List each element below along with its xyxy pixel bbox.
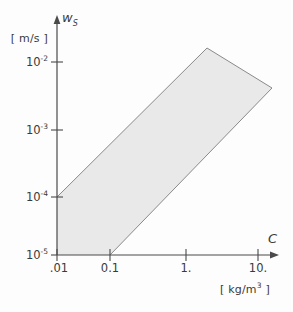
x-axis-title: C — [268, 232, 277, 245]
y-tick-label-1e-2: 10-2 — [26, 55, 48, 68]
y-tick-mantissa: 10 — [26, 248, 41, 262]
x-tick-label-0-01: .01 — [50, 263, 68, 275]
y-tick-label-1e-4: 10-4 — [26, 190, 48, 203]
y-tick-mantissa: 10 — [26, 190, 41, 204]
y-axis-title-base: w — [62, 10, 73, 25]
y-tick-label-1e-5: 10-5 — [26, 248, 48, 261]
y-axis-title-subscript: S — [73, 19, 78, 28]
y-tick-exponent: -5 — [41, 247, 48, 256]
x-axis-units-tail: ] — [262, 283, 270, 296]
x-axis-arrow-icon — [270, 252, 279, 259]
y-tick-label-1e-3: 10-3 — [26, 123, 48, 136]
y-tick-exponent: -2 — [41, 54, 48, 63]
y-tick-exponent: -4 — [41, 189, 48, 198]
y-tick-mantissa: 10 — [26, 55, 41, 69]
x-tick-label-10: 10. — [249, 263, 267, 275]
x-axis-units-label: [ kg/m3 ] — [220, 282, 270, 295]
y-axis-title: wS — [62, 11, 78, 28]
figure-container: wS [ m/s ] 10-2 10-3 10-4 10-5 .01 0.1 1… — [0, 0, 293, 312]
y-tick-mantissa: 10 — [26, 123, 41, 137]
x-tick-label-1: 1. — [181, 263, 192, 275]
y-axis-arrow-icon — [54, 15, 61, 24]
y-tick-exponent: -3 — [41, 122, 48, 131]
x-tick-label-0-1: 0.1 — [101, 263, 119, 275]
y-axis-units-label: [ m/s ] — [11, 33, 48, 44]
x-axis-units-base: [ kg/m — [220, 283, 257, 296]
shaded-band-region — [57, 48, 272, 255]
